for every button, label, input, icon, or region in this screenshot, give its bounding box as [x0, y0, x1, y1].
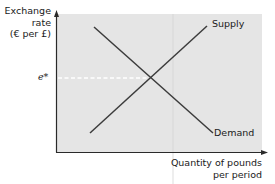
equilibrium-rate-label: e*: [38, 71, 48, 82]
supply-label: Supply: [212, 18, 244, 29]
y-axis-arrow-icon: [54, 10, 59, 17]
x-axis-arrow-icon: [261, 150, 268, 155]
y-axis-label-line: (€ per £): [0, 28, 51, 40]
y-axis-label-line: rate: [0, 17, 51, 29]
x-axis-label-line: per period: [171, 169, 262, 181]
y-axis-label-line: Exchange: [0, 5, 51, 17]
y-axis-label: Exchange rate (€ per £): [0, 5, 51, 40]
supply-demand-chart: Exchange rate (€ per £) e* Supply Demand…: [0, 0, 275, 184]
x-axis-label-line: Quantity of pounds: [171, 157, 262, 169]
demand-label: Demand: [214, 127, 254, 138]
x-axis-label: Quantity of pounds per period: [171, 157, 262, 180]
